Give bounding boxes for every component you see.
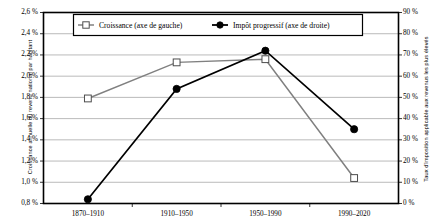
plot-area: Croissance (axe de gauche)Impôt progress… <box>0 0 436 224</box>
series-impot-progressif <box>84 47 357 203</box>
legend-label: Impôt progressif (axe de droite) <box>233 21 330 30</box>
legend-marker-open-square-icon <box>83 22 89 28</box>
data-point-marker <box>173 59 180 66</box>
data-point-marker <box>173 85 180 92</box>
data-series-layer <box>84 47 357 203</box>
data-point-marker <box>351 175 358 182</box>
legend-marker-filled-circle-icon <box>217 22 223 28</box>
plot-frame <box>44 13 399 204</box>
chart-legend: Croissance (axe de gauche)Impôt progress… <box>74 15 363 36</box>
y-tick-marks <box>40 13 402 204</box>
data-point-marker <box>84 196 91 203</box>
gridlines <box>44 34 399 183</box>
legend-label: Croissance (axe de gauche) <box>99 21 183 30</box>
data-point-marker <box>351 126 358 133</box>
data-point-marker <box>262 47 269 54</box>
data-point-marker <box>84 95 91 102</box>
chart-container: Croissance annuelle du revenu national p… <box>0 0 436 224</box>
data-point-marker <box>262 56 269 63</box>
